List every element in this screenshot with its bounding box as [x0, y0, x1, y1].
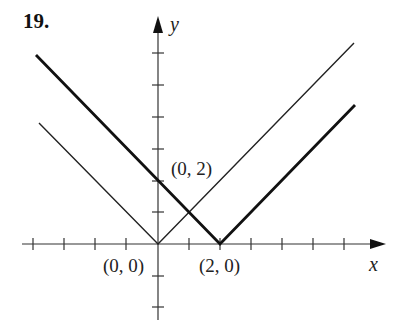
x-axis-arrow-icon — [370, 239, 386, 249]
y-axis-label: y — [170, 13, 179, 36]
y-intercept-label: (0, 2) — [171, 158, 212, 180]
y-axis-arrow-icon — [153, 16, 163, 33]
x-axis — [22, 238, 386, 250]
origin-label: (0, 0) — [103, 255, 144, 277]
series-abs-x — [39, 43, 354, 244]
y-axis — [152, 16, 164, 320]
x-axis-label: x — [369, 253, 378, 276]
figure: 19. — [0, 0, 406, 328]
vertex-label: (2, 0) — [199, 255, 240, 277]
series-abs-x-minus-2 — [36, 55, 355, 244]
